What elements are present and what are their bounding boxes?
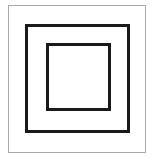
double-square-inner-icon (46, 43, 111, 111)
